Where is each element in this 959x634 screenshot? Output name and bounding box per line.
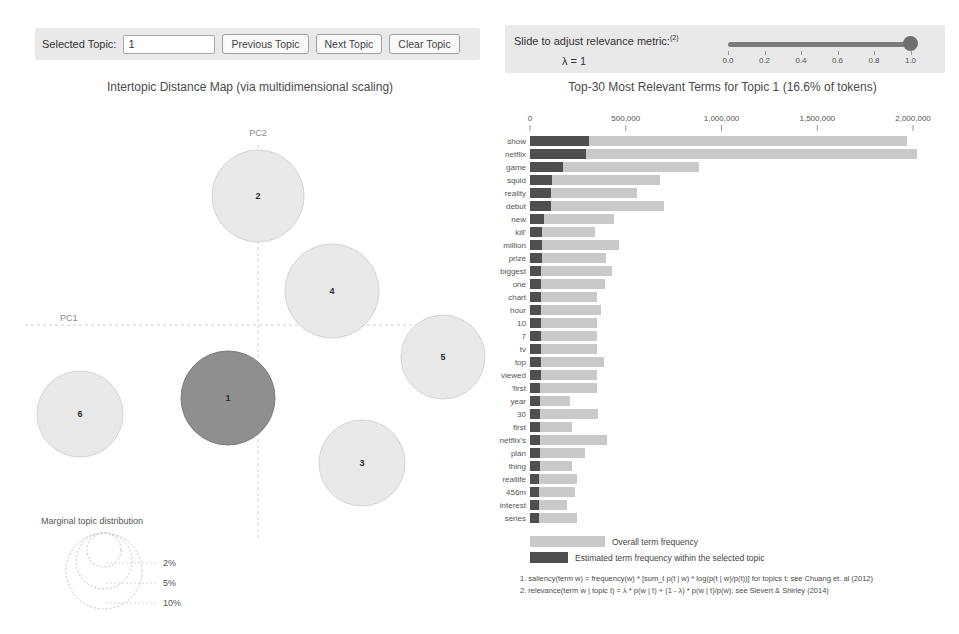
slider-ticklabel-0.0: 0.0: [722, 56, 733, 65]
term-label-hour[interactable]: hour: [510, 306, 526, 315]
term-label-plan[interactable]: plan: [511, 449, 526, 458]
intertopic-map-title: Intertopic Distance Map (via multidimens…: [20, 80, 480, 94]
term-label-7[interactable]: 7: [522, 332, 527, 341]
term-label-prize[interactable]: prize: [509, 254, 527, 263]
bar-topic-10[interactable]: [530, 318, 541, 328]
term-label-thing[interactable]: thing: [509, 462, 526, 471]
next-topic-button[interactable]: Next Topic: [316, 34, 383, 54]
term-label-chart[interactable]: chart: [508, 293, 527, 302]
bar-topic-thing[interactable]: [530, 461, 540, 471]
bar-overall-biggest[interactable]: [530, 266, 612, 276]
topic-circle-label-5[interactable]: 5: [440, 352, 445, 362]
term-label-tv[interactable]: tv: [520, 345, 526, 354]
topic-circle-label-6[interactable]: 6: [77, 409, 82, 419]
bar-topic-30[interactable]: [530, 409, 540, 419]
bar-topic-viewed[interactable]: [530, 370, 541, 380]
pyldavis-app: Selected Topic: Previous Topic Next Topi…: [0, 0, 959, 634]
lambda-slider-track[interactable]: [728, 42, 913, 47]
lambda-slider-handle[interactable]: [903, 36, 918, 51]
selected-topic-input[interactable]: [123, 35, 215, 54]
bar-overall-million[interactable]: [530, 240, 619, 250]
bar-topic-reallife[interactable]: [530, 474, 539, 484]
term-label-top[interactable]: top: [515, 358, 527, 367]
bar-topic-debut[interactable]: [530, 201, 551, 211]
bar-topic-series[interactable]: [530, 513, 539, 523]
bar-topic-reality[interactable]: [530, 188, 551, 198]
bar-topic-first[interactable]: [530, 422, 540, 432]
term-label-kill'[interactable]: kill': [515, 228, 526, 237]
bar-overall-30[interactable]: [530, 409, 598, 419]
term-label-year[interactable]: year: [510, 397, 526, 406]
term-label-million[interactable]: million: [503, 241, 526, 250]
topic-circle-label-4[interactable]: 4: [329, 286, 334, 296]
clear-topic-button[interactable]: Clear Topic: [389, 34, 459, 54]
bar-overall-one[interactable]: [530, 279, 605, 289]
topic-controls: Selected Topic: Previous Topic Next Topi…: [35, 28, 480, 60]
bar-topic-game[interactable]: [530, 162, 563, 172]
term-label-show[interactable]: show: [507, 137, 526, 146]
topic-circle-label-1[interactable]: 1: [225, 393, 230, 403]
term-label-one[interactable]: one: [513, 280, 527, 289]
slider-ticklabel-0.8: 0.8: [868, 56, 879, 65]
bar-topic-year[interactable]: [530, 396, 540, 406]
legend-swatch-overall: [530, 536, 605, 547]
bar-topic-one[interactable]: [530, 279, 541, 289]
topic-circle-label-3[interactable]: 3: [359, 458, 364, 468]
bar-topic-7[interactable]: [530, 331, 541, 341]
term-label-456m[interactable]: 456m: [506, 488, 526, 497]
legend-label-topic: Estimated term frequency within the sele…: [575, 553, 765, 563]
bar-topic-hour[interactable]: [530, 305, 541, 315]
bar-topic-netflix's[interactable]: [530, 435, 540, 445]
bar-topic-kill'[interactable]: [530, 227, 542, 237]
previous-topic-button[interactable]: Previous Topic: [222, 34, 308, 54]
slider-tickmark-0.8: [874, 51, 875, 55]
bar-topic-interest[interactable]: [530, 500, 539, 510]
lambda-value: λ = 1: [562, 55, 586, 67]
bar-topic-biggest[interactable]: [530, 266, 541, 276]
x-tick-label-500,000: 500,000: [611, 114, 640, 123]
term-label-series[interactable]: series: [505, 514, 526, 523]
intertopic-distance-map: PC2PC1123456Marginal topic distribution2…: [0, 100, 490, 634]
bar-topic-prize[interactable]: [530, 253, 542, 263]
term-label-'first[interactable]: 'first: [512, 384, 527, 393]
bar-topic-'first[interactable]: [530, 383, 540, 393]
bar-overall-'first[interactable]: [530, 383, 597, 393]
term-label-debut[interactable]: debut: [506, 202, 527, 211]
term-label-viewed[interactable]: viewed: [501, 371, 526, 380]
term-label-new[interactable]: new: [511, 215, 526, 224]
bar-topic-show[interactable]: [530, 136, 589, 146]
bar-topic-plan[interactable]: [530, 448, 540, 458]
term-label-netflix[interactable]: netflix: [505, 150, 526, 159]
term-label-biggest[interactable]: biggest: [500, 267, 527, 276]
term-label-interest[interactable]: interest: [500, 501, 527, 510]
bar-topic-netflix[interactable]: [530, 149, 586, 159]
bar-topic-chart[interactable]: [530, 292, 541, 302]
term-label-game[interactable]: game: [506, 163, 527, 172]
topic-circle-label-2[interactable]: 2: [255, 191, 260, 201]
bar-topic-tv[interactable]: [530, 344, 541, 354]
x-tick-label-1,500,000: 1,500,000: [799, 114, 835, 123]
slider-tickmark-0.2: [765, 51, 766, 55]
bar-overall-netflix's[interactable]: [530, 435, 607, 445]
term-label-10[interactable]: 10: [517, 319, 526, 328]
term-label-30[interactable]: 30: [517, 410, 526, 419]
bar-overall-top[interactable]: [530, 357, 604, 367]
slider-footnote-ref: (2): [670, 34, 679, 41]
pc2-axis-label: PC2: [249, 128, 267, 138]
legend-swatch-topic: [530, 552, 568, 563]
bar-topic-456m[interactable]: [530, 487, 539, 497]
bar-topic-new[interactable]: [530, 214, 544, 224]
term-label-first[interactable]: first: [513, 423, 527, 432]
term-frequency-chart: 0500,0001,000,0001,500,0002,000,000shown…: [490, 100, 959, 634]
bar-overall-netflix[interactable]: [530, 149, 917, 159]
term-label-squid[interactable]: squid: [507, 176, 526, 185]
bar-topic-million[interactable]: [530, 240, 542, 250]
legend-size-label-5%: 5%: [163, 578, 176, 588]
slider-tickmark-0.4: [801, 51, 802, 55]
term-label-reality[interactable]: reality: [505, 189, 526, 198]
bar-topic-top[interactable]: [530, 357, 541, 367]
top-terms-title: Top-30 Most Relevant Terms for Topic 1 (…: [495, 80, 950, 94]
term-label-reallife[interactable]: reallife: [502, 475, 526, 484]
term-label-netflix's[interactable]: netflix's: [500, 436, 526, 445]
bar-topic-squid[interactable]: [530, 175, 552, 185]
